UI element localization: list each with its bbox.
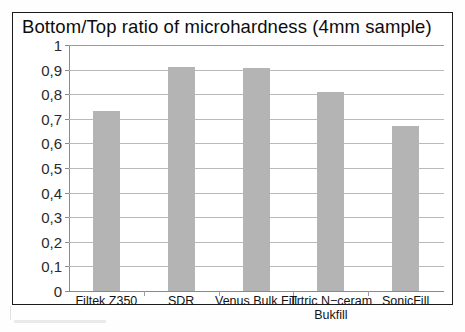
y-axis-tick	[65, 291, 69, 292]
bar	[93, 111, 120, 291]
bar	[243, 68, 270, 291]
chart-title: Bottom/Top ratio of microhardness (4mm s…	[22, 16, 447, 38]
y-axis-tick-label: 0,9	[41, 61, 62, 78]
y-axis-tick	[65, 119, 69, 120]
y-axis-tick	[65, 266, 69, 267]
y-axis-tick-label: 0,8	[41, 86, 62, 103]
gridline	[69, 45, 444, 46]
bar	[392, 126, 419, 291]
scan-artifact	[14, 320, 106, 323]
y-axis-tick	[65, 94, 69, 95]
category-label-line: Filtek Z350	[75, 294, 137, 308]
y-axis-tick	[65, 45, 69, 46]
y-axis-tick	[65, 143, 69, 144]
y-axis-tick	[65, 193, 69, 194]
category-label-line: SonicFill	[382, 294, 429, 308]
y-axis-tick-label: 0,1	[41, 258, 62, 275]
y-axis-tick	[65, 168, 69, 169]
y-axis-tick-label: 0,5	[41, 160, 62, 177]
category-label: Venus Bulk Fill	[215, 295, 297, 309]
y-axis-tick-label: 0,3	[41, 209, 62, 226]
y-axis-tick-label: 0,7	[41, 110, 62, 127]
category-label-line: Venus Bulk Fill	[215, 294, 297, 308]
category-label-line: Trtric N−ceram	[290, 294, 373, 308]
category-label: SonicFill	[382, 295, 429, 309]
y-axis-tick-label: 1	[54, 37, 62, 54]
y-axis-tick-label: 0	[54, 283, 62, 300]
x-axis-line	[69, 291, 444, 292]
bar	[168, 67, 195, 291]
y-axis-tick	[65, 242, 69, 243]
category-label-line: SDR	[168, 294, 194, 308]
bar	[317, 92, 344, 291]
y-axis-tick-label: 0,6	[41, 135, 62, 152]
category-label: Trtric N−ceramBukfill	[290, 295, 373, 322]
y-axis-tick	[65, 70, 69, 71]
category-label-line: Bukfill	[290, 309, 373, 323]
category-label: Filtek Z350	[75, 295, 137, 309]
chart-page: Bottom/Top ratio of microhardness (4mm s…	[0, 0, 465, 332]
y-axis-tick-label: 0,2	[41, 233, 62, 250]
y-axis-tick-label: 0,4	[41, 184, 62, 201]
category-label: SDR	[168, 295, 194, 309]
scan-artifact-edge	[10, 306, 11, 320]
x-axis-separator	[144, 291, 145, 296]
y-axis-tick	[65, 217, 69, 218]
plot-area: 10,90,80,70,60,50,40,30,20,10 Filtek Z35…	[69, 45, 443, 291]
